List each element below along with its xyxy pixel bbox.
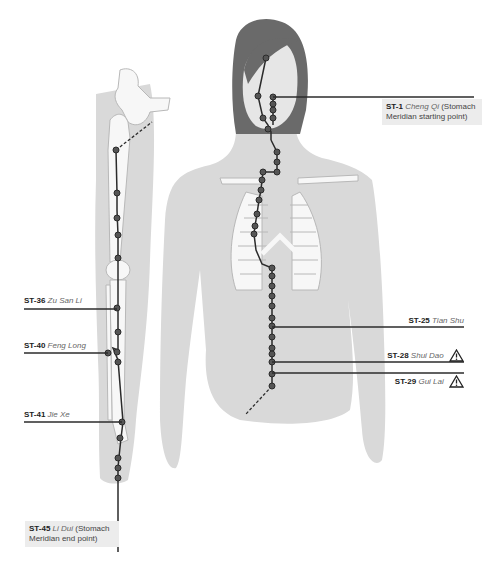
point-code: ST-36 bbox=[24, 296, 45, 305]
point-code: ST-41 bbox=[24, 410, 45, 419]
label-st-45: ST-45 Li Dui (Stomach Meridian end point… bbox=[25, 521, 119, 547]
label-st-1: ST-1 Cheng Qi (Stomach Meridian starting… bbox=[382, 99, 482, 125]
label-st-41: ST-41 Jie Xe bbox=[24, 410, 70, 420]
label-st-36: ST-36 Zu San Li bbox=[24, 296, 82, 306]
point-code: ST-29 bbox=[395, 377, 416, 386]
point-name: Shui Dao bbox=[411, 351, 444, 360]
point-code: ST-40 bbox=[24, 341, 45, 350]
label-st-25: ST-25 Tian Shu bbox=[380, 316, 464, 326]
point-code: ST-1 bbox=[386, 102, 403, 111]
point-name: Tian Shu bbox=[432, 316, 464, 325]
leg-figure bbox=[24, 69, 170, 552]
torso-figure bbox=[160, 19, 474, 468]
point-name: Jie Xe bbox=[48, 410, 70, 419]
label-st-29: ST-29 Gui Lai bbox=[380, 375, 464, 388]
meridian-illustration bbox=[0, 0, 486, 578]
warning-triangle-icon bbox=[449, 375, 464, 388]
label-st-40: ST-40 Feng Long bbox=[24, 341, 86, 351]
point-name: Cheng Qi bbox=[405, 102, 439, 111]
point-code: ST-45 bbox=[29, 524, 50, 533]
label-st-28: ST-28 Shui Dao bbox=[380, 349, 464, 362]
point-name: Li Dui bbox=[53, 524, 73, 533]
point-name: Zu San Li bbox=[48, 296, 82, 305]
warning-triangle-icon bbox=[449, 349, 464, 362]
point-name: Gui Lai bbox=[418, 377, 443, 386]
point-code: ST-25 bbox=[408, 316, 429, 325]
point-name: Feng Long bbox=[48, 341, 86, 350]
point-code: ST-28 bbox=[387, 351, 408, 360]
